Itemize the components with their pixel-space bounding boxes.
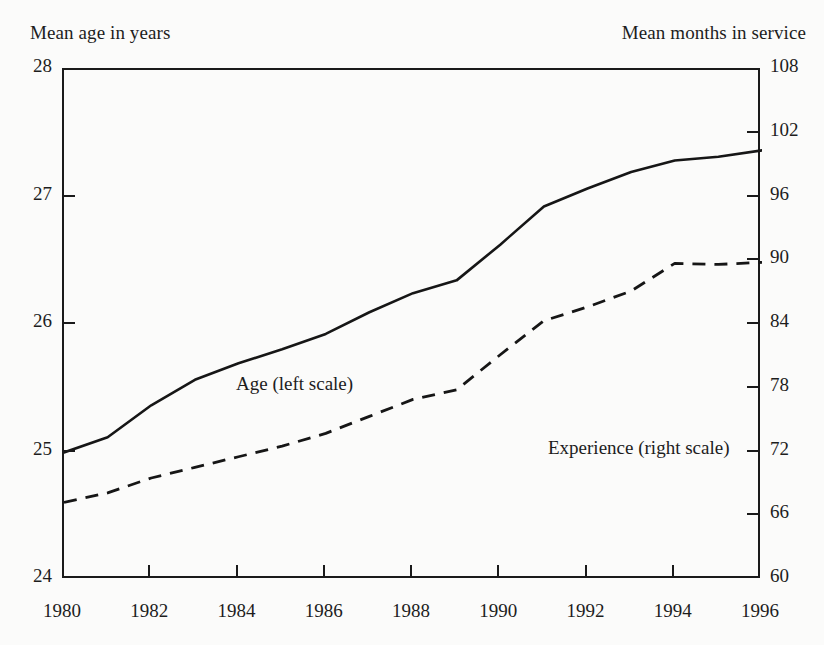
y2-tick-mark bbox=[747, 322, 760, 324]
y-tick-label: 28 bbox=[8, 55, 52, 77]
y-tick-label: 27 bbox=[8, 183, 52, 205]
x-tick-label: 1996 bbox=[720, 600, 800, 622]
y-tick-label: 24 bbox=[8, 565, 52, 587]
y-tick-mark bbox=[62, 450, 75, 452]
x-tick-label: 1990 bbox=[458, 600, 538, 622]
plot-svg bbox=[64, 70, 762, 580]
x-tick-mark bbox=[585, 565, 587, 578]
x-tick-mark bbox=[497, 565, 499, 578]
y2-tick-label: 66 bbox=[770, 501, 822, 523]
x-tick-mark bbox=[236, 565, 238, 578]
x-tick-label: 1992 bbox=[546, 600, 626, 622]
plot-area: Age (left scale) Experience (right scale… bbox=[62, 68, 760, 578]
y2-tick-mark bbox=[747, 258, 760, 260]
y2-tick-label: 102 bbox=[770, 119, 822, 141]
series-line-experience bbox=[64, 262, 762, 502]
x-tick-label: 1988 bbox=[371, 600, 451, 622]
y2-tick-label: 108 bbox=[770, 55, 822, 77]
y-tick-label: 25 bbox=[8, 438, 52, 460]
x-tick-label: 1986 bbox=[284, 600, 364, 622]
x-tick-label: 1984 bbox=[197, 600, 277, 622]
right-axis-caption: Mean months in service bbox=[622, 22, 806, 44]
y2-tick-mark bbox=[747, 386, 760, 388]
y2-tick-label: 84 bbox=[770, 310, 822, 332]
x-tick-mark bbox=[148, 565, 150, 578]
y2-tick-label: 60 bbox=[770, 565, 822, 587]
x-tick-mark bbox=[672, 565, 674, 578]
y2-tick-label: 72 bbox=[770, 438, 822, 460]
y-tick-mark bbox=[62, 195, 75, 197]
y2-tick-mark bbox=[747, 513, 760, 515]
series-annotation-age: Age (left scale) bbox=[236, 373, 353, 395]
y2-tick-label: 78 bbox=[770, 374, 822, 396]
x-tick-label: 1982 bbox=[109, 600, 189, 622]
y2-tick-mark bbox=[747, 195, 760, 197]
left-axis-caption: Mean age in years bbox=[30, 22, 170, 44]
y-tick-label: 26 bbox=[8, 310, 52, 332]
y2-tick-label: 96 bbox=[770, 183, 822, 205]
series-line-age bbox=[64, 150, 762, 452]
x-tick-mark bbox=[323, 565, 325, 578]
x-tick-label: 1994 bbox=[633, 600, 713, 622]
y2-tick-mark bbox=[747, 131, 760, 133]
y2-tick-mark bbox=[747, 450, 760, 452]
y-tick-mark bbox=[62, 322, 75, 324]
y2-tick-label: 90 bbox=[770, 246, 822, 268]
x-tick-mark bbox=[410, 565, 412, 578]
series-annotation-experience: Experience (right scale) bbox=[548, 437, 729, 459]
x-tick-label: 1980 bbox=[22, 600, 102, 622]
chart-page: Mean age in years Mean months in service… bbox=[0, 0, 824, 645]
